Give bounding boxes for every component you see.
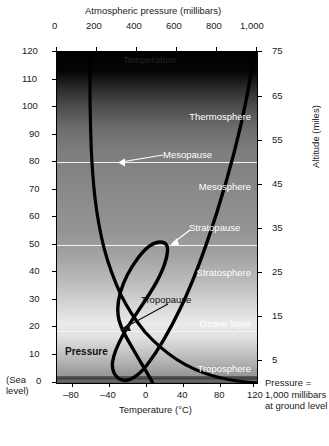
layer-label-mesosphere: Mesosphere — [199, 181, 251, 192]
right-tick-mark — [258, 360, 262, 361]
mesopause-leader — [118, 155, 163, 167]
layer-label-troposphere: Troposphere — [197, 363, 251, 374]
right-tick-label-15: 15 — [272, 310, 283, 321]
bottom-tick-mark — [146, 383, 147, 387]
left-tick-label-0: 0 — [36, 375, 41, 386]
left-tick-label-70: 70 — [29, 183, 40, 194]
bottom-tick-label-m80: –80 — [63, 389, 79, 400]
bottom-tick-label-0: 0 — [143, 389, 148, 400]
right-tick-mark — [258, 184, 262, 185]
mesopause-label: Mesopause — [163, 149, 212, 160]
right-tick-mark — [258, 96, 262, 97]
bottom-tick-mark — [72, 383, 73, 387]
left-tick-label-10: 10 — [29, 348, 40, 359]
bottom-tick-label-120: 120 — [247, 389, 263, 400]
top-tick-label-800: 800 — [206, 20, 222, 31]
left-tick-label-20: 20 — [29, 320, 40, 331]
bottom-tick-label-40: 40 — [177, 389, 188, 400]
pressure-series-label: Pressure — [65, 346, 108, 357]
top-axis-title: Atmospheric pressure (millibars) — [85, 5, 221, 16]
right-tick-label-65: 65 — [272, 90, 283, 101]
left-tick-label-120: 120 — [22, 45, 38, 56]
top-tick-label-200: 200 — [86, 20, 102, 31]
right-tick-mark — [258, 316, 262, 317]
right-tick-label-25: 25 — [272, 266, 283, 277]
top-tick-label-0: 0 — [52, 20, 57, 31]
layer-label-thermosphere: Thermosphere — [189, 111, 251, 122]
top-tick-label-600: 600 — [166, 20, 182, 31]
right-tick-label-45: 45 — [272, 178, 283, 189]
bottom-tick-mark — [253, 383, 254, 387]
plot-area: Temperature — [56, 51, 258, 384]
layer-label-stratosphere: Stratosphere — [197, 267, 251, 278]
right-axis-title: Altitude (miles) — [310, 105, 321, 168]
right-tick-label-75: 75 — [272, 45, 283, 56]
bottom-tick-mark — [220, 383, 221, 387]
tropopause-label: Tropopause — [141, 294, 191, 305]
right-tick-mark — [258, 228, 262, 229]
bottom-tick-mark — [183, 383, 184, 387]
stratopause-leader — [170, 230, 190, 246]
right-tick-label-35: 35 — [272, 222, 283, 233]
sea-level-line-2: level) — [6, 385, 29, 396]
temperature-curve-rendered — [112, 52, 255, 383]
top-tick-label-400: 400 — [126, 20, 142, 31]
atmosphere-temperature-pressure-chart: Atmospheric pressure (millibars) 0 200 4… — [0, 0, 329, 446]
right-tick-label-5: 5 — [272, 354, 277, 365]
right-tick-label-55: 55 — [272, 134, 283, 145]
temperature-curve — [118, 160, 179, 383]
bottom-tick-label-80: 80 — [214, 389, 225, 400]
right-tick-mark — [258, 51, 262, 52]
bottom-axis-title: Temperature (°C) — [119, 404, 192, 415]
sea-level-line-1: (Sea — [6, 374, 29, 385]
left-tick-label-50: 50 — [29, 238, 40, 249]
left-tick-label-30: 30 — [29, 293, 40, 304]
ground-pressure-note: Pressure = 1,000 millibars at ground lev… — [265, 377, 329, 412]
top-tick-label-1000: 1,000 — [240, 20, 264, 31]
sea-level-note: (Sea level) — [6, 374, 29, 396]
right-tick-mark — [258, 140, 262, 141]
curves-layer — [57, 52, 257, 383]
left-tick-label-40: 40 — [29, 265, 40, 276]
layer-label-ozone: Ozone layer — [200, 318, 251, 329]
left-tick-label-100: 100 — [22, 100, 38, 111]
right-tick-mark — [258, 272, 262, 273]
left-tick-label-80: 80 — [29, 155, 40, 166]
bottom-tick-mark — [109, 383, 110, 387]
left-tick-label-110: 110 — [22, 73, 37, 84]
stratopause-label: Stratopause — [189, 222, 240, 233]
left-tick-label-60: 60 — [29, 210, 40, 221]
bottom-tick-label-m40: –40 — [100, 389, 116, 400]
left-tick-label-90: 90 — [29, 128, 40, 139]
pressure-curve-rendered — [90, 52, 257, 383]
